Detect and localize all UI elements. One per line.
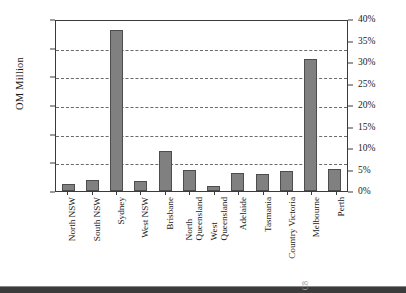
x-axis-label-line: West <box>209 197 219 240</box>
y-axis-right-tick-mark <box>348 20 353 21</box>
bar[interactable] <box>62 184 75 191</box>
y-axis-right: 0%5%10%15%20%25%30%35%40% <box>348 0 406 293</box>
x-axis-label-slot: Tasmania <box>250 194 274 286</box>
x-axis-label: Tasmania <box>263 197 273 232</box>
y-axis-right-tick-label: 25% <box>358 80 375 90</box>
y-axis-right-tick-mark <box>348 170 353 171</box>
x-axis-label: Melbourne <box>311 197 321 237</box>
bar[interactable] <box>134 181 147 191</box>
x-axis-label-line: Adelaide <box>238 197 248 230</box>
bar[interactable] <box>86 180 99 191</box>
bar[interactable] <box>110 30 123 191</box>
x-axis-label-line: Perth <box>336 197 346 216</box>
x-axis-label: Perth <box>336 197 346 216</box>
bar[interactable] <box>159 151 172 191</box>
plot-area <box>55 20 348 192</box>
y-axis-right-tick-mark <box>348 41 353 42</box>
x-axis-label-line: Country Victoria <box>287 197 297 259</box>
x-axis-label: Sydney <box>116 197 126 225</box>
bar-slot <box>105 21 129 191</box>
x-axis-label-line: Melbourne <box>311 197 321 237</box>
bar[interactable] <box>304 59 317 191</box>
x-axis-tick-mark <box>263 191 264 195</box>
bar-slot <box>153 21 177 191</box>
x-axis-label: Brisbane <box>165 197 175 230</box>
bar[interactable] <box>183 170 196 191</box>
x-axis-tick-mark <box>189 191 190 195</box>
bar-slot <box>56 21 80 191</box>
y-axis-right-tick-label: 5% <box>358 166 371 176</box>
x-axis-labels: North NSWSouth NSWSydneyWest NSWBrisbane… <box>55 194 348 286</box>
x-axis-label-slot: Brisbane <box>153 194 177 286</box>
x-axis-tick-mark <box>214 191 215 195</box>
y-axis-left: 050100150200250300 <box>0 0 55 293</box>
bar-slot <box>177 21 201 191</box>
x-axis-label-slot: Adelaide <box>226 194 250 286</box>
x-axis-tick-mark <box>140 191 141 195</box>
x-axis-label-slot: North NSW <box>55 194 79 286</box>
x-axis-label-slot: South NSW <box>79 194 103 286</box>
x-axis-tick-mark <box>67 191 68 195</box>
x-axis-label-line: Sydney <box>116 197 126 225</box>
chart-figure: OM Million 050100150200250300 0%5%10%15%… <box>0 0 406 293</box>
x-axis-label: North NSW <box>67 197 77 241</box>
bar[interactable] <box>280 171 293 191</box>
x-axis-label-slot: NorthQueensland <box>177 194 201 286</box>
x-axis-label: Country Victoria <box>287 197 297 259</box>
x-axis-label-line: South NSW <box>92 197 102 241</box>
x-axis-label-slot: West NSW <box>128 194 152 286</box>
bar-slot <box>226 21 250 191</box>
y-axis-right-tick-mark <box>348 63 353 64</box>
x-axis-tick-mark <box>287 191 288 195</box>
bar[interactable] <box>231 173 244 191</box>
y-axis-right-tick-label: 40% <box>358 15 375 25</box>
x-axis-label-line: West NSW <box>140 197 150 238</box>
x-axis-tick-mark <box>238 191 239 195</box>
x-axis-tick-mark <box>116 191 117 195</box>
x-axis-label-line: Brisbane <box>165 197 175 230</box>
x-axis-tick-mark <box>92 191 93 195</box>
y-axis-right-tick-mark <box>348 127 353 128</box>
y-axis-right-tick-label: 30% <box>358 58 375 68</box>
y-axis-right-tick-mark <box>348 106 353 107</box>
y-axis-right-tick-label: 10% <box>358 144 375 154</box>
bar-slot <box>274 21 298 191</box>
y-axis-right-tick-label: 0% <box>358 187 371 197</box>
bar-slot <box>129 21 153 191</box>
x-axis-label-slot: Sydney <box>104 194 128 286</box>
x-axis-tick-mark <box>165 191 166 195</box>
bar-slot <box>299 21 323 191</box>
bar[interactable] <box>256 174 269 191</box>
y-axis-right-tick-label: 15% <box>358 123 375 133</box>
y-axis-right-tick-label: 35% <box>358 37 375 47</box>
bar-slot <box>250 21 274 191</box>
bar[interactable] <box>328 169 341 191</box>
x-axis-label-line: North <box>184 197 194 240</box>
page-marker: C8 <box>301 281 310 290</box>
x-axis-label-slot: Country Victoria <box>275 194 299 286</box>
x-axis-tick-mark <box>311 191 312 195</box>
x-axis-label-line: Tasmania <box>263 197 273 232</box>
x-axis-label-slot: WestQueensland <box>202 194 226 286</box>
bar-slot <box>323 21 347 191</box>
y-axis-right-tick-mark <box>348 149 353 150</box>
y-axis-right-tick-mark <box>348 192 353 193</box>
y-axis-right-tick-mark <box>348 84 353 85</box>
x-axis-label: West NSW <box>140 197 150 238</box>
x-axis-label-slot: Melbourne <box>299 194 323 286</box>
x-axis-label-line: North NSW <box>67 197 77 241</box>
y-axis-right-tick-label: 20% <box>358 101 375 111</box>
x-axis-label: Adelaide <box>238 197 248 230</box>
bar-series <box>56 21 347 191</box>
x-axis-label: South NSW <box>92 197 102 241</box>
bar-slot <box>80 21 104 191</box>
bar-slot <box>202 21 226 191</box>
x-axis-label-slot: Perth <box>324 194 348 286</box>
footer-band <box>0 287 406 293</box>
x-axis-tick-mark <box>336 191 337 195</box>
